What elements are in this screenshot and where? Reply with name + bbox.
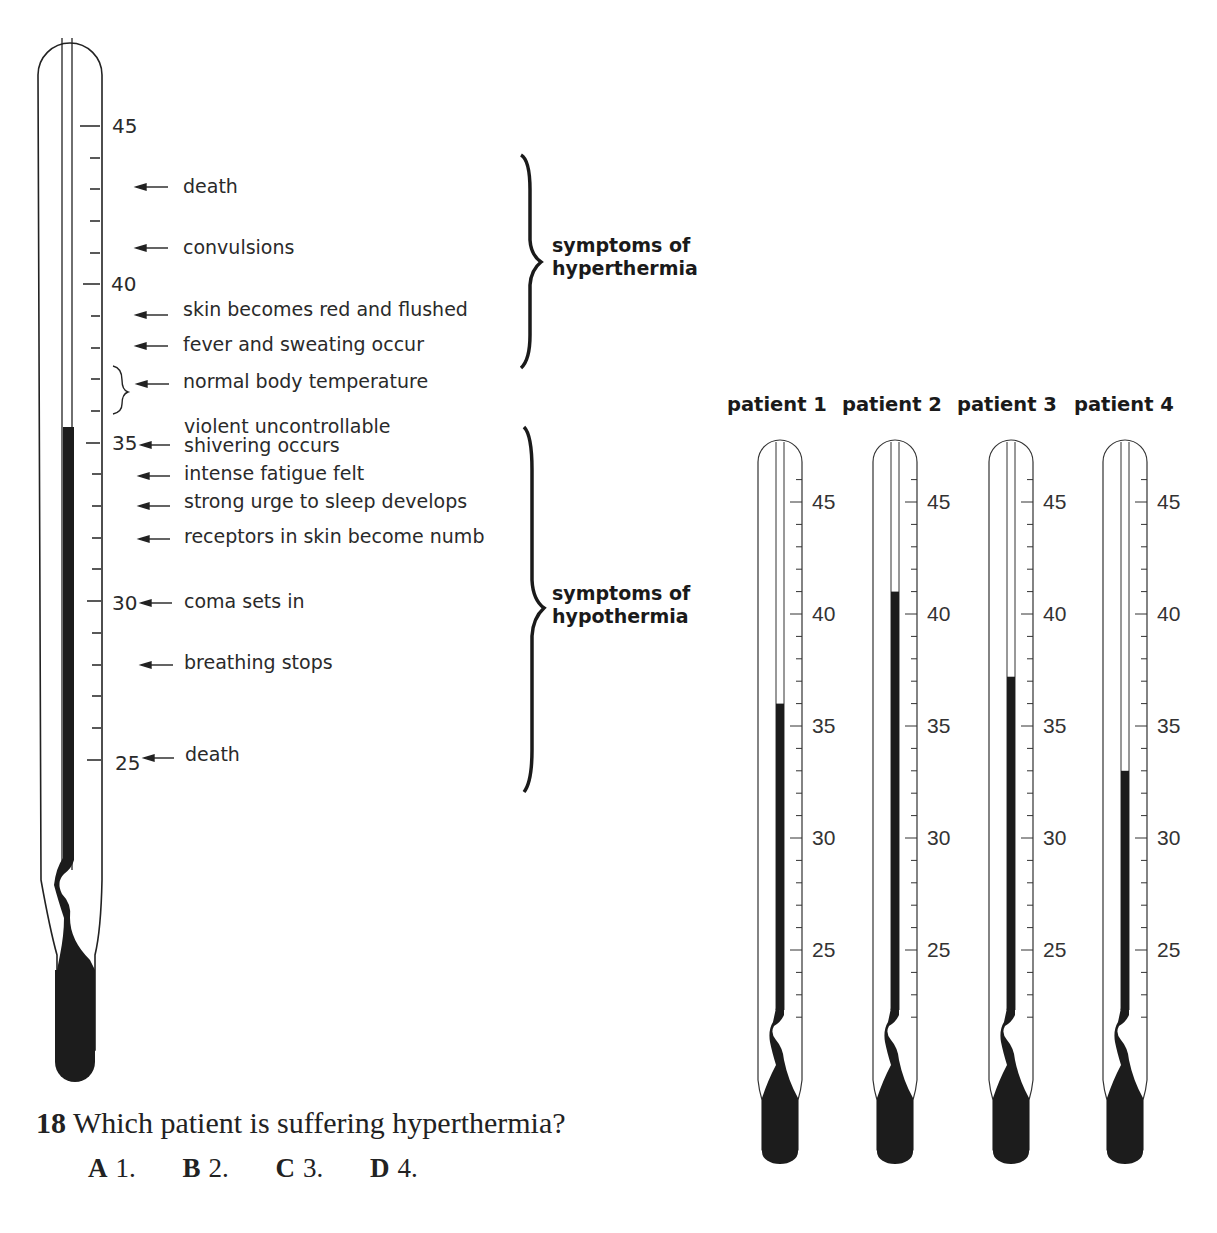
option-b[interactable]: B2. — [183, 1153, 229, 1184]
answer-options: A1. B2. C3. D4. — [88, 1153, 458, 1184]
patient-3-scale-30: 30 — [1043, 828, 1066, 848]
patient-3-scale-40: 40 — [1043, 604, 1066, 624]
patient-3-scale-45: 45 — [1043, 492, 1066, 512]
patient-4-scale-45: 45 — [1157, 492, 1180, 512]
question-text: Which patient is suffering hyperthermia? — [73, 1106, 566, 1139]
question-number: 18 — [36, 1106, 66, 1139]
patient-2-scale-45: 45 — [927, 492, 950, 512]
patient-3-scale-35: 35 — [1043, 716, 1066, 736]
patient-thermometer-2 — [873, 440, 917, 1164]
question: 18 Which patient is suffering hypertherm… — [36, 1106, 566, 1140]
patient-1-scale-40: 40 — [812, 604, 835, 624]
option-d[interactable]: D4. — [370, 1153, 418, 1184]
patient-4-scale-35: 35 — [1157, 716, 1180, 736]
patient-2-scale-35: 35 — [927, 716, 950, 736]
patient-1-scale-30: 30 — [812, 828, 835, 848]
option-c[interactable]: C3. — [276, 1153, 324, 1184]
patient-1-scale-25: 25 — [812, 940, 835, 960]
patient-2-scale-30: 30 — [927, 828, 950, 848]
patient-4-scale-40: 40 — [1157, 604, 1180, 624]
patient-thermometer-1 — [758, 440, 802, 1164]
patient-4-scale-30: 30 — [1157, 828, 1180, 848]
patient-thermometer-3 — [989, 440, 1033, 1164]
patient-1-scale-35: 35 — [812, 716, 835, 736]
patient-thermometer-graphics — [0, 0, 1217, 1233]
patient-1-scale-45: 45 — [812, 492, 835, 512]
patient-2-scale-40: 40 — [927, 604, 950, 624]
patient-thermometer-4 — [1103, 440, 1147, 1164]
option-a[interactable]: A1. — [88, 1153, 136, 1184]
patient-3-scale-25: 25 — [1043, 940, 1066, 960]
patient-4-scale-25: 25 — [1157, 940, 1180, 960]
patient-2-scale-25: 25 — [927, 940, 950, 960]
